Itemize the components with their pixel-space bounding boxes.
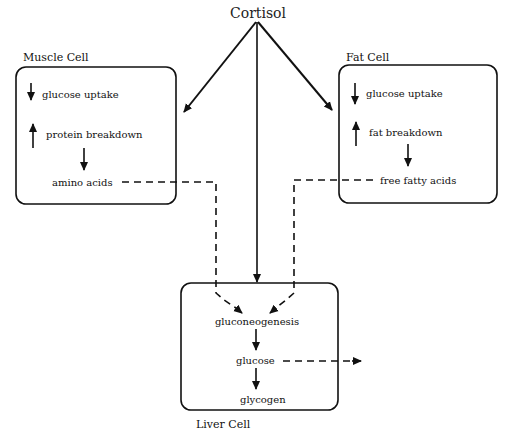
arrow-head-icon bbox=[236, 308, 242, 313]
liver-cell-box bbox=[181, 283, 338, 410]
fatty-acids-dashed-line bbox=[276, 180, 373, 308]
muscle-cell-title: Muscle Cell bbox=[23, 51, 89, 64]
fat-glucose-uptake: glucose uptake bbox=[366, 88, 443, 99]
cortisol-to-muscle-arrow bbox=[184, 22, 256, 112]
amino-acids-dashed-line bbox=[122, 182, 236, 308]
liver-gluconeogenesis: gluconeogenesis bbox=[215, 316, 299, 327]
cortisol-to-fat-arrow bbox=[258, 22, 332, 110]
muscle-glucose-uptake: glucose uptake bbox=[42, 89, 119, 100]
liver-glycogen: glycogen bbox=[240, 394, 286, 405]
cortisol-label: Cortisol bbox=[230, 5, 287, 21]
muscle-protein-breakdown: protein breakdown bbox=[46, 129, 143, 140]
liver-cell-title: Liver Cell bbox=[196, 418, 251, 431]
fat-free-fatty-acids: free fatty acids bbox=[380, 175, 456, 186]
liver-glucose: glucose bbox=[236, 355, 275, 366]
fat-fat-breakdown: fat breakdown bbox=[369, 127, 443, 138]
arrow-head-icon bbox=[270, 308, 276, 313]
muscle-amino-acids: amino acids bbox=[52, 177, 113, 188]
fat-cell-title: Fat Cell bbox=[346, 51, 390, 64]
cortisol-diagram: Cortisol Muscle Cell glucose uptake prot… bbox=[0, 0, 512, 437]
